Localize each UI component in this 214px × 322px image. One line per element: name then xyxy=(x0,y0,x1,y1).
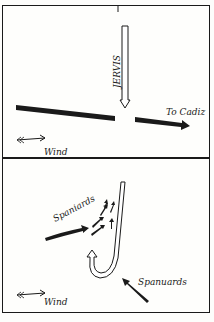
wind-arrow-icon-bottom xyxy=(17,290,45,298)
spanish-line-right-arrow xyxy=(135,117,190,130)
spanish-line-left xyxy=(16,105,115,121)
spanish-ships-cluster xyxy=(91,199,115,236)
wind-arrow-icon-top xyxy=(17,135,45,143)
wind-label-top: Wind xyxy=(44,147,68,157)
jervis-label: JERVIS xyxy=(112,55,122,90)
spaniards-lower-label: Spanuards xyxy=(138,277,187,287)
spaniards-upper-curve-arrow xyxy=(45,225,89,241)
to-cadiz-label: To Cadiz xyxy=(166,107,205,117)
wind-label-bottom: Wind xyxy=(44,297,68,307)
spaniards-upper-label: Spaniards xyxy=(51,193,97,224)
battle-diagram: JERVIS To Cadiz Wind Spaniards Spanuards… xyxy=(0,0,214,322)
